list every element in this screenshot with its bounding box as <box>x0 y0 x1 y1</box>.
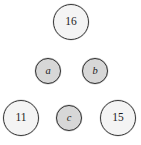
node-circle-c[interactable]: c <box>56 105 82 131</box>
node-label-b: b <box>92 66 97 77</box>
node-label-11: 11 <box>15 112 26 124</box>
node-circle-11[interactable]: 11 <box>3 100 39 136</box>
node-label-15: 15 <box>112 112 124 124</box>
node-label-c: c <box>67 113 72 124</box>
node-circle-16[interactable]: 16 <box>53 4 89 40</box>
node-label-a: a <box>45 66 50 77</box>
node-label-16: 16 <box>65 16 77 28</box>
node-circle-b[interactable]: b <box>82 58 108 84</box>
node-circle-a[interactable]: a <box>35 58 61 84</box>
node-circle-15[interactable]: 15 <box>100 100 136 136</box>
node-diagram-canvas: 16 a b 11 c 15 <box>0 0 141 145</box>
